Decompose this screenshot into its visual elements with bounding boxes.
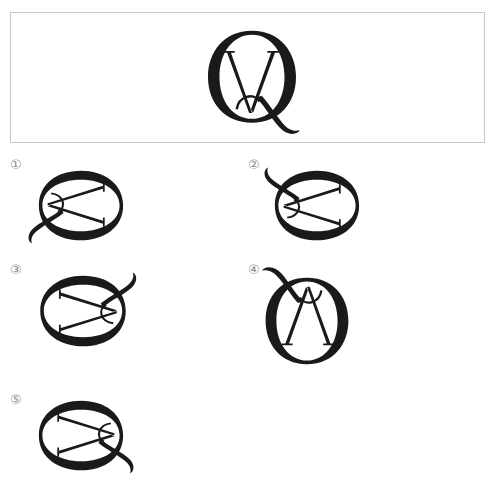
option-marker-1[interactable]: ① <box>10 158 22 171</box>
option-figure-2[interactable] <box>262 163 372 248</box>
rotated-monogram-2-icon <box>262 163 372 248</box>
question-box <box>10 12 485 143</box>
option-figure-4[interactable] <box>262 266 352 376</box>
option-marker-2[interactable]: ② <box>248 158 260 171</box>
rotated-monogram-4-icon <box>262 266 352 376</box>
rotated-monogram-3-icon <box>28 266 138 356</box>
option-marker-3[interactable]: ③ <box>10 263 22 276</box>
option-figure-3[interactable] <box>28 266 138 356</box>
option-marker-5[interactable]: ⑤ <box>10 393 22 406</box>
question-monogram-figure <box>202 27 302 137</box>
option-marker-4[interactable]: ④ <box>248 263 260 276</box>
rotated-monogram-1-icon <box>26 163 136 248</box>
rotated-monogram-5-icon <box>26 393 136 478</box>
q-v-monogram-icon <box>202 27 302 137</box>
option-figure-5[interactable] <box>26 393 136 478</box>
option-figure-1[interactable] <box>26 163 136 248</box>
